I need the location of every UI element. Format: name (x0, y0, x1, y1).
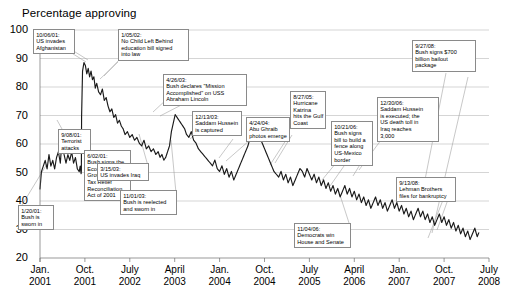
y-axis-tick-label: 70 (2, 109, 28, 121)
annotation-text-line: sworn in (21, 221, 51, 228)
annotation-text-line: education bill signed (121, 45, 186, 52)
annotation-callout: 9/27/08:Bush signs $700billion bailoutpa… (412, 40, 476, 72)
annotation-text-line: House and Senate (297, 239, 348, 246)
annotation-text-line: hits the Gulf (293, 113, 323, 120)
annotation-callout: 3/15/03:US invades Iraq (97, 163, 149, 181)
x-axis-tick-label: July2008 (462, 264, 505, 287)
annotation-text-line: Bush is reelected (123, 199, 174, 206)
annotation-callout: 9/13/08:Lehman Brothersfiles for bankrup… (396, 177, 456, 202)
annotation-text-line: files for bankruptcy (399, 193, 453, 200)
annotation-text-line: 3,000 (380, 133, 436, 140)
annotation-callout: 10/21/06:Bush signsbill to build afence … (331, 121, 373, 166)
annotation-text-line: Abu Ghraib (249, 126, 287, 133)
y-axis-tick-label: 50 (2, 166, 28, 178)
y-axis-tick-label: 90 (2, 52, 28, 64)
annotation-date: 9/13/08: (399, 180, 453, 187)
annotation-date: 10/21/06: (334, 124, 370, 131)
annotation-callout: 4/24/04:Abu Ghraibphotos emerge (246, 117, 290, 142)
annotation-text-line: Bush signs (334, 130, 370, 137)
annotation-text-line: bill to build a (334, 137, 370, 144)
annotation-text-line: Lehman Brothers (399, 186, 453, 193)
annotation-text-line: is executed; the (380, 113, 436, 120)
annotation-callout: 10/06/01:US invadesAfghanistan (33, 29, 75, 54)
annotation-date: 1/05/02: (121, 32, 186, 39)
annotation-text-line: and sworn in (123, 206, 174, 213)
annotation-text-line: Coast (293, 120, 323, 127)
annotation-text-line: Democrats win (297, 232, 348, 239)
annotation-text-line: Saddam Hussein (380, 106, 436, 113)
annotation-text-line: No Child Left Behind (121, 38, 186, 45)
annotation-date: 12/13/03: (195, 114, 239, 121)
y-axis-tick-label: 80 (2, 80, 28, 92)
annotation-callout: 12/13/03:Saddam Husseinis captured (192, 111, 242, 136)
annotation-text-line: into law (121, 51, 186, 58)
annotation-callout: 8/27/05:HurricaneKatrinahits the GulfCoa… (290, 91, 326, 129)
annotation-callout: 4/26/03:Bush declares "MissionAccomplish… (163, 74, 247, 106)
annotation-callout: 12/30/06:Saddam Husseinis executed; theU… (377, 97, 439, 142)
annotation-date: 4/24/04: (249, 120, 287, 127)
annotation-date: 10/06/01: (36, 32, 72, 39)
annotation-text-line: Bush is (21, 214, 51, 221)
annotation-text-line: Abraham Lincoln (166, 96, 244, 103)
annotation-text-line: US invades (36, 38, 72, 45)
annotation-date: 11/04/06: (297, 226, 348, 233)
annotation-text-line: Hurricane (293, 100, 323, 107)
annotation-text-line: fence along (334, 143, 370, 150)
annotation-text-line: Terrorist (61, 138, 88, 145)
annotation-date: 12/30/06: (380, 100, 436, 107)
annotation-date: 3/15/03: (100, 166, 146, 173)
annotation-date: 4/26/03: (166, 77, 244, 84)
annotation-text-line: package (415, 62, 473, 69)
x-tick-year: 2008 (462, 276, 505, 288)
annotation-date: 9/27/08: (415, 43, 473, 50)
annotation-text-line: is captured (195, 127, 239, 134)
y-axis-tick-label: 60 (2, 137, 28, 149)
annotation-text-line: photos emerge (249, 133, 287, 140)
annotation-text-line: border (334, 157, 370, 164)
y-axis-tick-label: 100 (2, 23, 28, 35)
annotation-text-line: Afghanistan (36, 45, 72, 52)
annotation-date: 11/01/03: (123, 193, 174, 200)
annotation-callout: 1/20/01:Bush issworn in (18, 205, 54, 230)
x-tick-month: July (462, 264, 505, 276)
annotation-date: 9/08/01: (61, 132, 88, 139)
annotation-date: 6/02/01: (87, 153, 128, 160)
annotation-text-line: US-Mexico (334, 150, 370, 157)
annotation-date: 1/20/01: (21, 208, 51, 215)
annotation-text-line: Accomplished" on USS (166, 90, 244, 97)
annotation-callout: 11/04/06:Democrats winHouse and Senate (294, 223, 351, 248)
annotation-text-line: Bush signs $700 (415, 49, 473, 56)
annotation-text-line: US death toll in (380, 119, 436, 126)
annotation-text-line: Iraq reaches (380, 126, 436, 133)
annotation-text-line: billion bailout (415, 56, 473, 63)
annotation-text-line: Bush declares "Mission (166, 83, 244, 90)
y-axis-tick-label: 20 (2, 251, 28, 263)
annotation-text-line: US invades Iraq (100, 172, 146, 179)
annotation-callout: 11/01/03:Bush is reelectedand sworn in (120, 190, 177, 215)
annotation-date: 8/27/05: (293, 94, 323, 101)
annotation-text-line: Katrina (293, 107, 323, 114)
annotation-callout: 1/05/02:No Child Left Behindeducation bi… (118, 29, 189, 61)
annotation-text-line: Saddam Hussein (195, 120, 239, 127)
